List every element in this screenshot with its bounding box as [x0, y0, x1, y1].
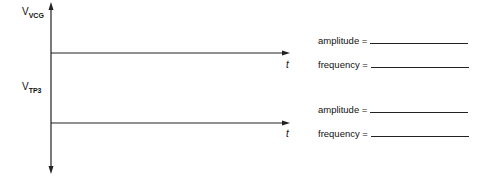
axes-diagram [0, 0, 494, 179]
frequency-field-2: frequency = [318, 128, 469, 139]
arrow-right-icon [282, 51, 290, 56]
amplitude-blank-1[interactable] [370, 43, 468, 44]
arrow-right-icon [282, 121, 290, 126]
frequency-blank-1[interactable] [371, 67, 469, 68]
frequency-field-1: frequency = [318, 59, 469, 70]
time-label-1: t [286, 59, 289, 70]
amplitude-field-1: amplitude = [318, 35, 468, 46]
signal1-label: VVCG [22, 6, 44, 19]
signal2-label: VTP3 [22, 81, 42, 94]
amplitude-field-2: amplitude = [318, 104, 468, 115]
amplitude-blank-2[interactable] [370, 112, 468, 113]
time-label-2: t [286, 128, 289, 139]
frequency-blank-2[interactable] [371, 136, 469, 137]
arrow-down-icon [49, 166, 54, 174]
arrow-up-icon [49, 2, 54, 10]
